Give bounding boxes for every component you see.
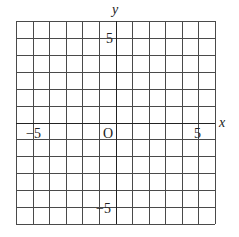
x-axis-label: x <box>219 116 225 130</box>
y-tick-label-pos5: 5 <box>106 32 113 46</box>
x-tick-label-pos5: 5 <box>194 127 201 141</box>
y-axis-label: y <box>112 3 118 17</box>
x-tick-label-neg5: −5 <box>26 127 41 141</box>
coordinate-grid <box>0 0 239 237</box>
y-tick-label-neg5: −5 <box>96 202 111 216</box>
origin-label: O <box>103 127 113 141</box>
